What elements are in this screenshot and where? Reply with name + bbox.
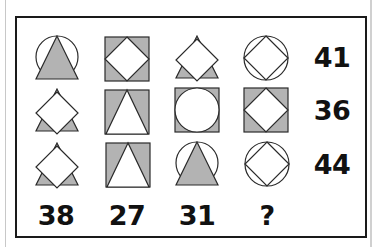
circle-diamond-icon (241, 34, 291, 84)
column-total-unknown: ? (240, 202, 294, 229)
square-diamond-icon (102, 34, 152, 84)
triangle-diamond-icon (32, 141, 82, 191)
shape-gray-square-with-white-diamond (102, 34, 152, 84)
square-diamond-icon (241, 85, 291, 135)
triangle-diamond-icon (32, 87, 82, 137)
square-triangle-icon (102, 87, 152, 137)
row-total-3: 44 (305, 151, 359, 178)
circle-triangle-icon (32, 34, 82, 84)
shape-circle-with-gray-triangle (32, 34, 82, 84)
column-total-1: 38 (29, 202, 83, 229)
shape-circle-with-diamond (242, 140, 292, 190)
page-edge-right (370, 0, 372, 247)
square-circle-icon (172, 85, 222, 135)
shape-gray-square-with-white-diamond (241, 85, 291, 135)
shape-gray-triangle-with-white-diamond (32, 87, 82, 137)
row-total-2: 36 (305, 97, 359, 124)
shape-circle-with-gray-triangle (172, 140, 222, 190)
triangle-diamond-icon (172, 34, 222, 84)
shape-gray-square-with-white-circle (172, 85, 222, 135)
row-total-1: 41 (305, 44, 359, 71)
page-edge-left (5, 0, 6, 247)
column-total-3: 31 (170, 202, 224, 229)
circle-triangle-icon (172, 140, 222, 190)
shape-circle-with-diamond (241, 34, 291, 84)
puzzle-frame: 41 36 44 38 27 31 ? (15, 16, 367, 238)
square-triangle-icon (103, 140, 153, 190)
shape-gray-square-with-white-triangle (102, 87, 152, 137)
shape-gray-triangle-with-white-diamond (172, 34, 222, 84)
shape-gray-square-with-white-triangle (103, 140, 153, 190)
shape-gray-triangle-with-white-diamond (32, 141, 82, 191)
column-total-2: 27 (100, 202, 154, 229)
circle-diamond-icon (242, 140, 292, 190)
